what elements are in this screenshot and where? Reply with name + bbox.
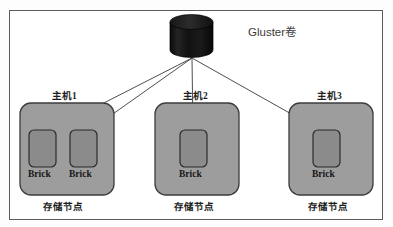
- host-2-footer: 存储节点: [174, 199, 214, 213]
- gluster-volume-label: Gluster卷: [248, 23, 296, 39]
- brick-label-host1-a: Brick: [28, 169, 51, 179]
- diagram-graphics: [0, 0, 393, 227]
- diagram-canvas: Gluster卷 主机1 主机2 主机3 Brick Brick Brick B…: [0, 0, 393, 227]
- brick-label-host3-a: Brick: [312, 169, 335, 179]
- host-1-title: 主机1: [52, 88, 77, 102]
- host-3-footer: 存储节点: [308, 199, 348, 213]
- brick-label-host2-a: Brick: [179, 169, 202, 179]
- host-1-footer: 存储节点: [43, 199, 83, 213]
- host-2-title: 主机2: [183, 88, 208, 102]
- brick-host3-a[interactable]: [313, 130, 340, 167]
- brick-label-host1-b: Brick: [69, 169, 92, 179]
- brick-host2-a[interactable]: [180, 130, 207, 167]
- brick-host1-b[interactable]: [70, 130, 97, 167]
- host-3-title: 主机3: [317, 88, 342, 102]
- gluster-volume-cylinder-icon[interactable]: [170, 15, 213, 58]
- brick-host1-a[interactable]: [29, 130, 56, 167]
